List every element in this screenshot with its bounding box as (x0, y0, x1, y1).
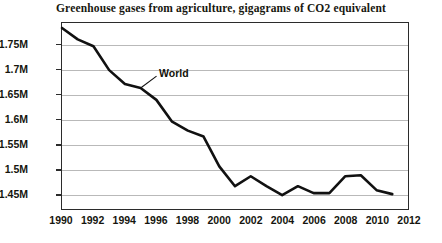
y-axis-tick-label: 1.5M (0, 163, 28, 175)
chart-figure: Greenhouse gases from agriculture, gigag… (0, 0, 442, 243)
y-axis-tick-label: 1.45M (0, 188, 28, 200)
y-axis-tick-label: 1.65M (0, 88, 28, 100)
annotation-leader-line (141, 76, 157, 88)
chart-title: Greenhouse gases from agriculture, gigag… (0, 2, 442, 14)
y-axis-tick-label: 1.75M (0, 38, 28, 50)
y-axis-tick-label: 1.6M (0, 113, 28, 125)
y-axis-tick-label: 1.55M (0, 138, 28, 150)
series-layer (62, 23, 408, 209)
x-axis-tick-label: 2012 (389, 214, 429, 226)
plot-area (61, 22, 409, 210)
series-line-world (62, 28, 392, 195)
series-annotation-world: World (159, 67, 189, 79)
y-axis-tick-label: 1.7M (0, 63, 28, 75)
